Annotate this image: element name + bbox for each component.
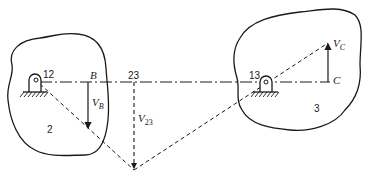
velocity-line-23-to-c	[134, 43, 328, 170]
instant-center-23-label: 23	[128, 70, 140, 81]
point-c-label: C	[333, 74, 341, 86]
velocity-diagram: 12 B 23 13 C 2 3 VB V23 VC	[0, 0, 371, 179]
vc-label: VC	[333, 37, 346, 52]
point-b-label: B	[90, 69, 97, 81]
body-2-outline	[8, 33, 109, 155]
pivot-13-label: 13	[249, 70, 261, 81]
vb-label: VB	[92, 96, 104, 111]
body-2-label: 2	[47, 124, 53, 135]
velocity-line-12-to-23	[40, 84, 134, 170]
v23-label: V23	[138, 112, 153, 127]
pivot-12-label: 12	[43, 69, 55, 80]
body-3-label: 3	[314, 103, 320, 114]
